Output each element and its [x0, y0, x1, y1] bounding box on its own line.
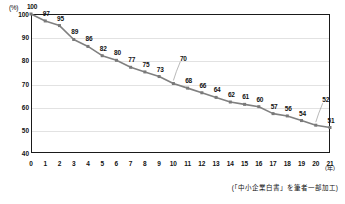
data-point-label: 86	[86, 35, 93, 42]
chart-container: (%) 100908070605040 10097958986828077757…	[0, 0, 345, 204]
data-point-marker	[200, 91, 203, 94]
x-axis-tick: 11	[184, 160, 191, 167]
data-point-marker	[286, 114, 289, 117]
data-point-label: 73	[157, 65, 164, 72]
data-point-label: 60	[256, 95, 263, 102]
x-axis-tick: 13	[212, 160, 219, 167]
data-point-label: 68	[185, 77, 192, 84]
data-point-marker	[30, 13, 33, 16]
data-point-label: 64	[214, 86, 221, 93]
data-point-marker	[186, 87, 189, 90]
data-point-label: 70	[180, 54, 187, 61]
y-axis-tick: 80	[7, 57, 29, 64]
x-axis-tick: 18	[284, 160, 291, 167]
x-axis-tick: 14	[227, 160, 234, 167]
data-point-label: 62	[228, 91, 235, 98]
data-point-label: 82	[100, 44, 107, 51]
data-point-marker	[243, 103, 246, 106]
data-point-marker	[329, 126, 332, 129]
data-point-label: 54	[299, 109, 306, 116]
data-point-marker	[143, 70, 146, 73]
y-axis-tick: 40	[7, 150, 29, 157]
data-point-marker	[129, 66, 132, 69]
data-point-marker	[158, 75, 161, 78]
data-point-label: 100	[27, 3, 37, 10]
source-note: (「中小企業白書」を筆者一部加工)	[232, 182, 338, 192]
x-axis-tick: 20	[312, 160, 319, 167]
x-axis-unit-label: (年)	[325, 163, 335, 172]
x-axis-tick: 6	[115, 160, 119, 167]
data-point-label: 77	[128, 56, 135, 63]
data-point-marker	[86, 45, 89, 48]
x-axis-tick: 0	[29, 160, 33, 167]
y-axis-tick: 60	[7, 103, 29, 110]
data-point-label: 95	[57, 14, 64, 21]
data-point-label: 51	[328, 116, 335, 123]
x-axis-tick: 3	[72, 160, 76, 167]
y-axis-tick-labels: 100908070605040	[0, 14, 29, 153]
data-point-label: 89	[71, 28, 78, 35]
data-point-label: 61	[242, 93, 249, 100]
data-point-marker	[314, 124, 317, 127]
x-axis-tick: 17	[269, 160, 276, 167]
data-point-marker	[44, 19, 47, 22]
y-axis-tick: 90	[7, 34, 29, 41]
data-point-marker	[229, 101, 232, 104]
x-axis-tick: 16	[255, 160, 262, 167]
data-point-label: 75	[142, 60, 149, 67]
data-point-marker	[101, 54, 104, 57]
x-axis-tick: 2	[58, 160, 62, 167]
label-leader-line	[173, 62, 180, 81]
data-point-marker	[172, 82, 175, 85]
data-point-label: 66	[199, 81, 206, 88]
data-point-marker	[272, 112, 275, 115]
data-point-label: 97	[43, 9, 50, 16]
data-point-label: 52	[322, 96, 329, 103]
data-point-marker	[257, 105, 260, 108]
x-axis-tick: 15	[241, 160, 248, 167]
y-axis-tick: 50	[7, 126, 29, 133]
data-point-label: 80	[114, 49, 121, 56]
x-axis-tick: 12	[198, 160, 205, 167]
x-axis-tick: 8	[143, 160, 147, 167]
data-point-label: 57	[271, 102, 278, 109]
data-point-marker	[215, 96, 218, 99]
x-axis-tick: 10	[170, 160, 177, 167]
data-point-marker	[58, 24, 61, 27]
x-axis-tick: 5	[100, 160, 104, 167]
x-axis-tick: 7	[129, 160, 133, 167]
data-point-marker	[300, 119, 303, 122]
x-axis-tick: 9	[157, 160, 161, 167]
label-leader-line	[316, 103, 323, 122]
data-point-label: 56	[285, 104, 292, 111]
x-axis-tick: 1	[43, 160, 47, 167]
data-point-marker	[72, 38, 75, 41]
x-axis-tick-labels: 0123456789101112131415161718192021	[31, 160, 330, 172]
x-axis-tick: 4	[86, 160, 90, 167]
y-axis-tick: 100	[7, 11, 29, 18]
data-point-marker	[115, 59, 118, 62]
x-axis-tick: 19	[298, 160, 305, 167]
y-axis-tick: 70	[7, 80, 29, 87]
